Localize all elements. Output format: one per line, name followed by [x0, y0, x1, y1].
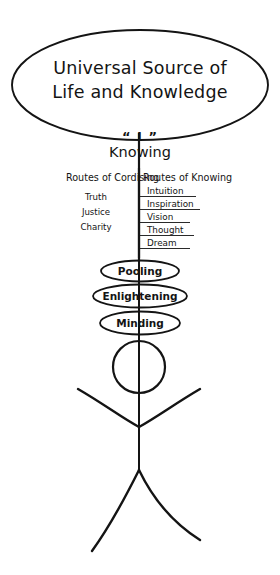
diagram-canvas	[0, 0, 280, 575]
